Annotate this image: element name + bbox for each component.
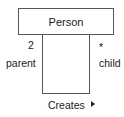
class-name: Person (49, 16, 84, 28)
reflexive-association-line (42, 35, 90, 94)
child-multiplicity: * (99, 42, 103, 53)
parent-role-label: parent (6, 58, 36, 69)
person-class-box: Person (18, 8, 114, 35)
association-name: Creates (48, 100, 85, 111)
child-role-label: child (99, 58, 121, 69)
direction-arrow-icon (91, 101, 95, 107)
parent-multiplicity: 2 (28, 40, 34, 51)
